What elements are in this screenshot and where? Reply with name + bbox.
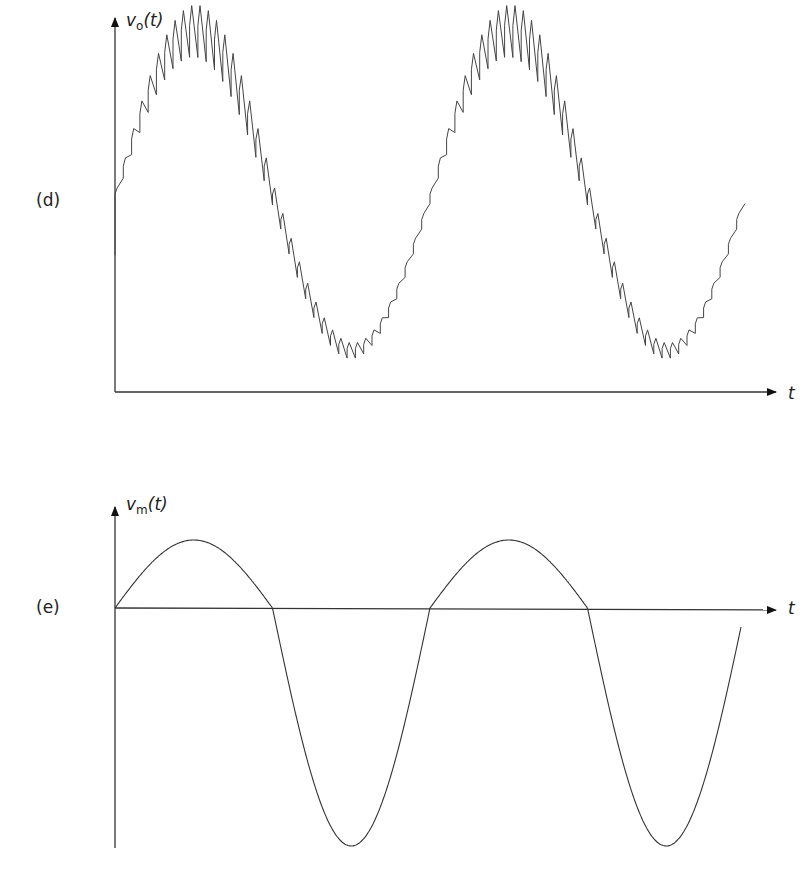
panel-e-axes [115, 507, 776, 848]
panel-d-axes [115, 18, 776, 392]
vm-waveform [115, 540, 741, 846]
y-label-var: v [126, 494, 136, 514]
panel-label-e: (e) [36, 597, 60, 617]
panel-label-d: (d) [36, 190, 60, 210]
figure-canvas [0, 0, 811, 873]
y-label-arg: (t) [143, 10, 163, 30]
y-label-arg: (t) [148, 494, 168, 514]
y-axis-label-vm: vm(t) [126, 494, 168, 517]
vo-waveform [115, 6, 745, 359]
y-label-var: v [126, 10, 136, 30]
y-axis-label-vo: vo(t) [126, 10, 163, 33]
e-x-axis [115, 608, 776, 610]
y-label-sub: m [136, 503, 148, 517]
x-axis-label-d: t [788, 383, 795, 403]
x-axis-label-e: t [788, 598, 795, 618]
